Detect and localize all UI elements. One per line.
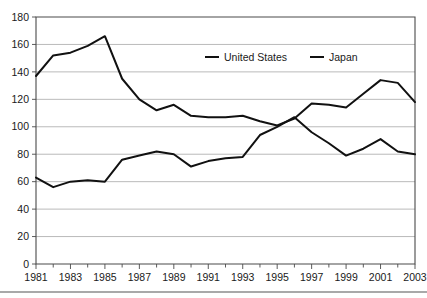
y-tick-label-100: 100 [11, 120, 29, 132]
x-tick-label-2001: 2001 [369, 271, 393, 283]
x-tick-label-2003: 2003 [403, 271, 427, 283]
x-tick-label-1983: 1983 [59, 271, 83, 283]
x-tick-label-1997: 1997 [300, 271, 324, 283]
x-tick-label-1995: 1995 [266, 271, 290, 283]
y-tick-label-180: 180 [11, 11, 29, 23]
y-tick-label-80: 80 [17, 148, 29, 160]
x-tick-label-1987: 1987 [128, 271, 152, 283]
y-tick-label-140: 140 [11, 66, 29, 78]
y-tick-label-0: 0 [23, 258, 29, 270]
chart-container: 020406080100120140160180 198119831985198… [0, 0, 427, 298]
x-tick-label-1991: 1991 [197, 271, 221, 283]
x-tick-label-1989: 1989 [162, 271, 186, 283]
x-tick-label-1999: 1999 [334, 271, 358, 283]
x-tick-label-1985: 1985 [93, 271, 117, 283]
x-tick-label-1993: 1993 [231, 271, 255, 283]
x-tick-label-1981: 1981 [24, 271, 48, 283]
y-tick-label-120: 120 [11, 93, 29, 105]
y-tick-label-60: 60 [17, 175, 29, 187]
y-tick-label-160: 160 [11, 38, 29, 50]
y-tick-label-20: 20 [17, 230, 29, 242]
chart-legend: United StatesJapan [205, 51, 358, 63]
y-tick-label-40: 40 [17, 203, 29, 215]
legend-label-united-states: United States [224, 51, 287, 63]
line-chart: 020406080100120140160180 198119831985198… [0, 0, 427, 298]
legend-label-japan: Japan [329, 51, 358, 63]
